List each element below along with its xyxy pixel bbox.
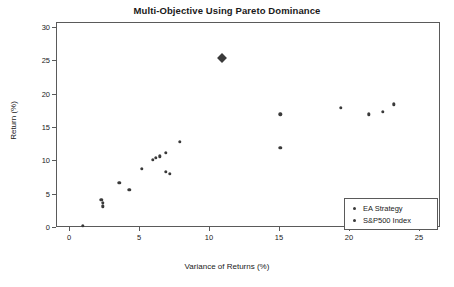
data-point <box>127 188 130 191</box>
chart-container: Multi-Objective Using Pareto Dominance 0… <box>0 0 454 287</box>
y-axis-tick-label: 30 <box>38 23 50 32</box>
data-points-layer <box>0 0 454 287</box>
x-axis-tick <box>69 227 70 231</box>
legend-label: S&P500 Index <box>363 216 411 225</box>
y-axis-tick-label: 20 <box>38 89 50 98</box>
x-axis-tick <box>139 227 140 231</box>
data-point <box>164 170 167 173</box>
data-point <box>81 224 84 227</box>
data-point <box>339 106 342 109</box>
y-axis-tick <box>52 227 56 228</box>
data-point <box>217 53 227 63</box>
legend-item-ea-strategy: EA Strategy <box>349 202 437 214</box>
legend-marker-circle-icon <box>349 207 359 210</box>
y-axis-tick <box>52 27 56 28</box>
y-axis-label: Return (%) <box>9 86 18 156</box>
x-axis-tick <box>209 227 210 231</box>
y-axis-tick-label: 25 <box>38 56 50 65</box>
y-axis-tick <box>52 60 56 61</box>
x-axis-tick <box>279 227 280 231</box>
data-point <box>178 140 181 143</box>
x-axis-tick-label: 5 <box>137 233 141 242</box>
data-point <box>168 172 171 175</box>
data-point <box>279 113 282 116</box>
y-axis-tick <box>52 160 56 161</box>
x-axis-tick-label: 0 <box>67 233 71 242</box>
data-point <box>367 113 370 116</box>
data-point <box>279 146 282 149</box>
data-point <box>118 181 121 184</box>
x-axis-tick-label: 25 <box>415 233 423 242</box>
legend-item-sp500-index: S&P500 Index <box>349 214 437 226</box>
y-axis-tick <box>52 194 56 195</box>
data-point <box>164 151 167 154</box>
y-axis-tick-label: 15 <box>38 123 50 132</box>
data-point <box>140 167 143 170</box>
data-point <box>154 156 157 159</box>
data-point <box>101 205 104 208</box>
y-axis-tick-label: 0 <box>38 223 50 232</box>
y-axis-tick <box>52 94 56 95</box>
y-axis-tick-label: 5 <box>38 189 50 198</box>
y-axis-tick <box>52 127 56 128</box>
data-point <box>392 103 395 106</box>
y-axis-tick-label: 10 <box>38 156 50 165</box>
legend-marker-diamond-icon <box>349 219 359 222</box>
x-axis-label: Variance of Returns (%) <box>0 262 454 271</box>
data-point <box>158 155 161 158</box>
x-axis-tick-label: 15 <box>275 233 283 242</box>
data-point <box>381 110 384 113</box>
legend-label: EA Strategy <box>363 204 403 213</box>
x-axis-tick-label: 10 <box>205 233 213 242</box>
x-axis-tick-label: 20 <box>345 233 353 242</box>
chart-legend: EA Strategy S&P500 Index <box>344 198 438 230</box>
